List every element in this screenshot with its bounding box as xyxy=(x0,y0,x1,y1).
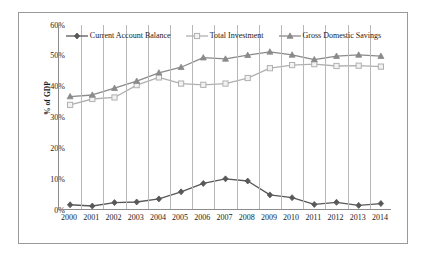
x-axis-tick-labels: 2000200120022003200420052006200720082009… xyxy=(58,213,391,227)
data-point-square xyxy=(68,102,73,107)
data-point-square xyxy=(223,81,228,86)
gridline-vertical xyxy=(148,25,149,209)
legend-item-square[interactable]: Total Investment xyxy=(185,31,264,41)
data-point-square xyxy=(334,63,339,68)
data-point-diamond xyxy=(245,178,250,184)
gridline-vertical xyxy=(237,25,238,209)
legend-marker-square-icon xyxy=(185,31,209,41)
gridline-vertical xyxy=(325,25,326,209)
data-point-diamond xyxy=(134,199,139,205)
chart-figure: % of GDP 0%10%20%30%40%50%60% 2000200120… xyxy=(18,12,408,244)
data-point-diamond xyxy=(178,189,183,195)
gridline-vertical xyxy=(370,25,371,209)
legend-item-diamond[interactable]: Current Account Balance xyxy=(65,31,171,41)
data-point-square xyxy=(156,75,161,80)
legend-marker-triangle-icon xyxy=(278,31,302,41)
gridline-vertical xyxy=(126,25,127,209)
data-point-square xyxy=(194,33,199,38)
data-point-square xyxy=(356,63,361,68)
data-point-diamond xyxy=(289,195,294,201)
plot-area xyxy=(58,25,391,210)
chart-legend: Current Account BalanceTotal InvestmentG… xyxy=(63,29,383,43)
data-point-square xyxy=(112,95,117,100)
gridline-vertical xyxy=(303,25,304,209)
data-point-square xyxy=(290,62,295,67)
data-point-diamond xyxy=(201,180,206,186)
data-point-diamond xyxy=(378,201,383,207)
legend-label: Current Account Balance xyxy=(90,31,171,41)
gridline-vertical xyxy=(103,25,104,209)
data-point-diamond xyxy=(156,196,161,202)
data-point-diamond xyxy=(267,192,272,198)
legend-marker-diamond-icon xyxy=(65,31,89,41)
legend-label: Total Investment xyxy=(210,31,264,41)
line-chart: % of GDP 0%10%20%30%40%50%60% 2000200120… xyxy=(19,13,407,243)
data-point-diamond xyxy=(356,202,361,208)
data-point-diamond xyxy=(312,201,317,207)
data-point-diamond xyxy=(90,203,95,209)
data-point-square xyxy=(245,75,250,80)
gridline-vertical xyxy=(170,25,171,209)
series-2 xyxy=(67,49,384,99)
x-tick-label: 2014 xyxy=(363,213,397,223)
gridline-vertical xyxy=(192,25,193,209)
data-point-square xyxy=(267,66,272,71)
data-point-triangle xyxy=(267,49,273,54)
legend-item-triangle[interactable]: Gross Domestic Savings xyxy=(278,31,382,41)
data-point-diamond xyxy=(74,33,79,39)
data-point-diamond xyxy=(112,200,117,206)
gridline-vertical xyxy=(214,25,215,209)
gridline-vertical xyxy=(281,25,282,209)
data-point-square xyxy=(179,81,184,86)
data-point-square xyxy=(312,62,317,67)
data-point-diamond xyxy=(223,176,228,182)
plot-svg xyxy=(59,25,392,210)
gridline-vertical xyxy=(81,25,82,209)
gridline-vertical xyxy=(259,25,260,209)
series-0 xyxy=(67,176,383,209)
data-point-diamond xyxy=(67,202,72,208)
data-point-square xyxy=(378,64,383,69)
series-1 xyxy=(68,62,384,108)
legend-label: Gross Domestic Savings xyxy=(303,31,382,41)
data-point-diamond xyxy=(334,199,339,205)
data-point-square xyxy=(201,82,206,87)
gridline-vertical xyxy=(348,25,349,209)
